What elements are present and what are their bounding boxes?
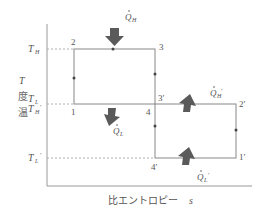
svg-text:L: L	[34, 99, 39, 105]
svg-text:H: H	[34, 49, 40, 55]
qlp-arrow-icon	[178, 147, 195, 165]
ql-label: Q L	[113, 124, 124, 137]
lower-cycle	[155, 104, 236, 158]
flow-dot-2-3	[112, 48, 115, 51]
diagram-canvas: 温 度 T T H T L T H ′ T L ′ 2 3 1 4 3′ 2′ …	[0, 0, 264, 212]
svg-text:′: ′	[40, 103, 42, 111]
ts-diagram: 温 度 T T H T L T H ′ T L ′ 2 3 1 4 3′ 2′ …	[0, 0, 264, 212]
qlp-label: Q L ′	[197, 170, 210, 183]
state-2-label: 2	[71, 37, 76, 47]
svg-text:′: ′	[40, 151, 42, 159]
flow-dot-3p-4p	[154, 125, 157, 128]
svg-text:Q: Q	[210, 88, 217, 98]
svg-text:′: ′	[208, 171, 210, 179]
state-1p-label: 1′	[239, 152, 246, 162]
state-4-label: 4	[146, 107, 151, 117]
tlp-label: T L ′	[28, 151, 42, 164]
flow-dot-1p-2p	[235, 129, 238, 132]
svg-text:H: H	[131, 17, 137, 23]
qh-label: Q H	[125, 10, 137, 23]
x-label-symbol: s	[189, 195, 193, 206]
flow-dot-3-4	[154, 73, 157, 76]
state-3-label: 3	[159, 42, 164, 52]
svg-text:Q: Q	[125, 12, 132, 22]
y-label-symbol: T	[19, 75, 26, 86]
y-label-char-2: 度	[18, 90, 28, 102]
svg-text:T: T	[28, 152, 35, 163]
state-3p-label: 3′	[158, 93, 165, 103]
qhp-arrow-icon	[179, 94, 196, 112]
th-label: T H	[28, 43, 40, 55]
state-1-label: 1	[71, 107, 76, 117]
svg-text:Q: Q	[197, 172, 204, 182]
qhp-label: Q H ′	[210, 86, 223, 99]
flow-dot-1-2	[73, 77, 76, 80]
svg-text:T: T	[28, 43, 35, 54]
state-4p-label: 4′	[151, 162, 158, 172]
qh-arrow-icon	[105, 28, 124, 46]
y-label-char-1: 温	[18, 107, 28, 118]
upper-cycle	[74, 49, 155, 104]
state-2p-label: 2′	[239, 99, 246, 109]
svg-text:T: T	[28, 103, 35, 114]
svg-text:L: L	[34, 158, 39, 164]
svg-text:′: ′	[221, 87, 223, 95]
x-label: 比エントロピー	[108, 195, 178, 206]
svg-text:L: L	[119, 131, 124, 137]
svg-text:Q: Q	[113, 126, 120, 136]
ql-arrow-icon	[104, 108, 120, 126]
